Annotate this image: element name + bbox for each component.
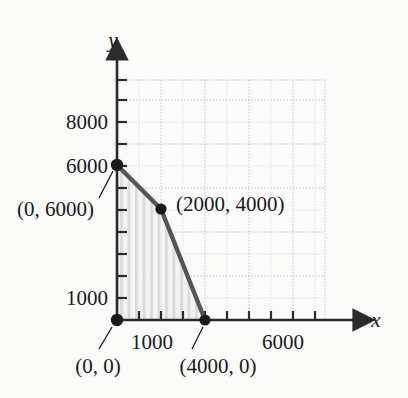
annotation-0-0: (0, 0)	[75, 354, 121, 378]
x-axis-label: x	[370, 308, 381, 332]
annotation-2000-4000: (2000, 4000)	[176, 192, 285, 216]
figure-container: 8000 6000 1000 1000 6000 y x (0, 6000) (…	[0, 0, 408, 398]
y-tick-label-1000: 1000	[66, 286, 108, 310]
x-tick-label-1000: 1000	[131, 330, 173, 354]
y-tick-label-8000: 8000	[66, 110, 108, 134]
y-tick-label-6000: 6000	[66, 154, 108, 178]
coordinate-plane-figure: 8000 6000 1000 1000 6000 y x (0, 6000) (…	[0, 0, 408, 398]
point-4000-0	[199, 314, 210, 325]
y-axis-label: y	[106, 28, 118, 52]
point-0-6000	[111, 159, 123, 171]
annotation-4000-0: (4000, 0)	[180, 354, 257, 378]
x-tick-label-6000: 6000	[262, 330, 304, 354]
point-0-0	[111, 314, 123, 326]
point-2000-4000	[155, 203, 166, 214]
annotation-0-6000: (0, 6000)	[17, 197, 94, 221]
